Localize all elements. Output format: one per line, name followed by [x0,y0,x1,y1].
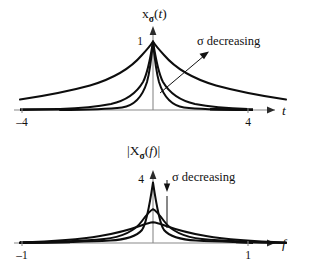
top-annotation-label: σ decreasing [197,34,261,48]
bottom-annotation-label: σ decreasing [172,170,236,184]
top-curve-sigma-medium [60,42,248,110]
top-annotation-arrow-line [160,55,205,93]
bottom-annotation-arrowhead [164,184,170,193]
top-x-axis-arrowhead [267,107,275,114]
top-xtick-right-label: 4 [245,116,251,128]
bottom-peak-label: 4 [138,173,144,185]
top-plot: xσ(t) 1 –4 4 [14,6,287,128]
fourier-pair-figure: xσ(t) 1 –4 4 [0,0,314,267]
bottom-xtick-right-label: 1 [245,249,251,261]
top-plot-title: xσ(t) [142,6,167,24]
bottom-plot: |Xσ(f)| 4 –1 1 [14,143,288,261]
top-title-close: ) [162,6,167,21]
figure-container: xσ(t) 1 –4 4 [0,0,314,267]
bottom-axis-name: f [282,236,288,251]
bottom-title-bar-right: | [157,143,160,158]
bottom-title-base: X [130,143,140,158]
bottom-xtick-left-label: –1 [15,249,28,261]
top-y-axis-arrowhead [150,26,157,35]
top-xtick-left-label: –4 [15,116,28,128]
top-peak-label: 1 [137,35,143,47]
top-axis-name: t [282,103,287,118]
bottom-plot-title: |Xσ(f)| [127,143,160,161]
bottom-y-axis-arrowhead [150,170,157,179]
